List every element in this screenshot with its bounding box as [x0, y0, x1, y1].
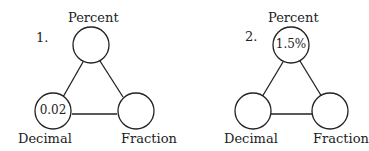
fraction-circle-2 — [312, 93, 348, 129]
fraction-label-1: Fraction — [121, 131, 177, 146]
decimal-circle-2 — [235, 93, 271, 129]
fraction-label-2: Fraction — [313, 131, 369, 146]
diagram-number-1: 1. — [36, 30, 48, 45]
diagram-number-2: 2. — [245, 29, 257, 44]
percent-circle-1 — [73, 27, 109, 63]
decimal-value-1: 0.02 — [33, 103, 73, 117]
percent-label-1: Percent — [68, 10, 119, 25]
percent-value-2: 1.5% — [271, 37, 311, 51]
percent-label-2: Percent — [268, 10, 319, 25]
decimal-label-2: Decimal — [224, 131, 278, 146]
decimal-label-1: Decimal — [18, 131, 72, 146]
fraction-circle-1 — [118, 93, 154, 129]
